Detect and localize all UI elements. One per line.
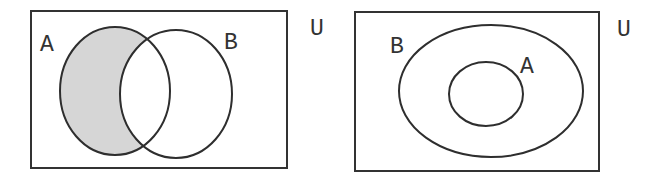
diagram-a-subset-b: B A U <box>355 12 631 171</box>
set-b-label-right: B <box>390 34 404 60</box>
universe-label-left: U <box>310 16 324 42</box>
shaded-region-a-minus-b <box>0 0 652 182</box>
diagram-a-minus-b: A B U <box>0 0 652 182</box>
universe-label-right: U <box>617 17 631 43</box>
set-a-label-right: A <box>520 54 534 80</box>
venn-diagrams: A B U B A U <box>0 0 652 182</box>
set-a-label-left: A <box>40 32 54 58</box>
set-a-ellipse-right <box>449 62 523 126</box>
set-b-ellipse-right <box>399 25 583 157</box>
set-b-label-left: B <box>224 30 238 56</box>
